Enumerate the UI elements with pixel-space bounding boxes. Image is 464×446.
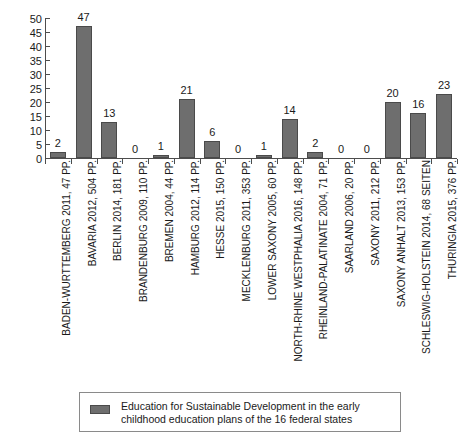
bar — [101, 122, 117, 158]
bar-group: 23 — [431, 18, 457, 158]
bar — [204, 141, 220, 158]
y-tick-label: 35 — [30, 55, 42, 66]
bar — [385, 102, 401, 158]
bar-group: 16 — [406, 18, 432, 158]
bar-group: 13 — [97, 18, 123, 158]
x-category-label: RHEINLAND-PALATINATE 2004, 71 PP. — [319, 160, 329, 339]
bar-value-label: 0 — [132, 144, 138, 155]
bar-value-label: 14 — [284, 105, 296, 116]
bar-group: 14 — [277, 18, 303, 158]
x-category-label: SAARLAND 2006, 20 PP. — [345, 160, 355, 273]
bar — [410, 113, 426, 158]
x-axis-category-labels: BADEN-WURTTEMBERG 2011, 47 PP.BAVARIA 20… — [45, 160, 457, 370]
y-tick-label: 0 — [36, 153, 42, 164]
legend-label: Education for Sustainable Development in… — [121, 400, 393, 426]
x-category-label: LOWER SAXONY 2005, 60 PP. — [268, 160, 278, 300]
y-tick-label: 10 — [30, 125, 42, 136]
bar-value-label: 16 — [412, 99, 424, 110]
bar-value-label: 20 — [387, 88, 399, 99]
y-tick: 35 — [46, 60, 50, 61]
bar-chart: 24713012160114200201623 0510152025303540… — [0, 0, 464, 446]
x-category-label: BAVARIA 2012, 504 PP. — [88, 160, 98, 266]
bar — [256, 155, 272, 158]
x-category-label: THURINGIA 2015, 376 PP. — [448, 160, 458, 279]
bar-value-label: 23 — [438, 80, 450, 91]
x-category-label: BRANDENBURG 2009, 110 PP. — [139, 160, 149, 302]
y-tick-label: 30 — [30, 69, 42, 80]
y-tick-label: 5 — [36, 139, 42, 150]
bar-value-label: 2 — [55, 138, 61, 149]
x-category-label: HAMBURG 2012, 114 PP. — [191, 160, 201, 275]
bar-value-label: 21 — [181, 85, 193, 96]
bar — [153, 155, 169, 158]
bar-group: 47 — [71, 18, 97, 158]
bar-group: 2 — [303, 18, 329, 158]
legend-color-swatch — [90, 405, 110, 414]
bar-group: 20 — [380, 18, 406, 158]
bar — [307, 152, 323, 158]
y-tick: 5 — [46, 144, 50, 145]
y-tick: 25 — [46, 88, 50, 89]
x-category-label: HESSE 2015, 150 PP. — [216, 160, 226, 259]
y-tick: 40 — [46, 46, 50, 47]
y-tick: 20 — [46, 102, 50, 103]
bar — [179, 99, 195, 158]
bar — [436, 94, 452, 158]
y-tick: 10 — [46, 130, 50, 131]
bar-value-label: 1 — [158, 141, 164, 152]
bar-group: 21 — [174, 18, 200, 158]
y-tick: 15 — [46, 116, 50, 117]
bar-value-label: 6 — [209, 127, 215, 138]
bar-group: 0 — [225, 18, 251, 158]
y-tick: 45 — [46, 32, 50, 33]
y-tick-label: 45 — [30, 27, 42, 38]
x-category-label: BERLIN 2014, 181 PP. — [113, 160, 123, 261]
x-category-label: SCHLESWIG-HOLSTEIN 2014, 68 SEITEN — [422, 160, 432, 354]
y-tick-label: 25 — [30, 83, 42, 94]
bar-group: 0 — [328, 18, 354, 158]
chart-legend: Education for Sustainable Development in… — [79, 392, 401, 432]
x-category-label: SAXONY 2011, 212 PP. — [371, 160, 381, 266]
y-tick-label: 40 — [30, 41, 42, 52]
y-tick: 50 — [46, 18, 50, 19]
bar — [50, 152, 66, 158]
bar — [76, 26, 92, 158]
bar-group: 1 — [251, 18, 277, 158]
x-category-label: NORTH-RHINE WESTPHALIA 2016, 148 PP. — [294, 160, 304, 361]
y-tick-label: 15 — [30, 111, 42, 122]
bar — [282, 119, 298, 158]
x-category-label: SAXONY ANHALT 2013, 153 PP. — [397, 160, 407, 307]
plot-area: 24713012160114200201623 0510152025303540… — [45, 18, 457, 158]
bar-group: 0 — [122, 18, 148, 158]
bar-value-label: 13 — [103, 108, 115, 119]
x-category-label: MECKLENBURG 2011, 353 PP. — [242, 160, 252, 301]
bars-container: 24713012160114200201623 — [45, 18, 457, 158]
y-tick-label: 50 — [30, 13, 42, 24]
bar-value-label: 0 — [364, 144, 370, 155]
y-tick: 0 — [46, 158, 50, 159]
bar-value-label: 0 — [235, 144, 241, 155]
x-category-label: BREMEN 2004, 44 PP. — [165, 160, 175, 262]
y-tick: 30 — [46, 74, 50, 75]
bar-group: 6 — [200, 18, 226, 158]
y-tick-label: 20 — [30, 97, 42, 108]
bar-value-label: 47 — [78, 12, 90, 23]
bar-group: 0 — [354, 18, 380, 158]
bar-group: 1 — [148, 18, 174, 158]
bar-value-label: 0 — [338, 144, 344, 155]
bar-value-label: 1 — [261, 141, 267, 152]
bar-value-label: 2 — [312, 138, 318, 149]
x-category-label: BADEN-WURTTEMBERG 2011, 47 PP. — [62, 160, 72, 336]
